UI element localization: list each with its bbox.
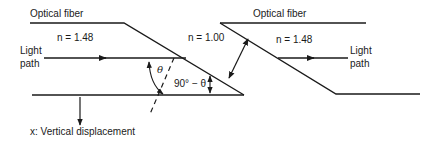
complement-angle-label: 90° − θ	[174, 78, 207, 89]
left-light-path-label-line1: Light	[20, 45, 42, 56]
left-fiber-index-label: n = 1.48	[57, 32, 94, 43]
gap-index-label: n = 1.00	[188, 32, 225, 43]
right-light-path-label-line2: path	[350, 58, 369, 69]
right-fiber-index-label: n = 1.48	[276, 34, 313, 45]
gap-distance-arrow-icon	[229, 39, 248, 78]
right-light-path-label-line1: Light	[350, 45, 372, 56]
fiber-gap-diagram: Optical fiber n = 1.48 Light path n = 1.…	[0, 0, 440, 142]
theta-label: θ	[157, 64, 163, 75]
vertical-displacement-label: x: Vertical displacement	[30, 126, 135, 137]
left-fiber-label: Optical fiber	[30, 8, 84, 19]
left-light-path-label-line2: path	[20, 58, 39, 69]
right-fiber-label: Optical fiber	[253, 8, 307, 19]
